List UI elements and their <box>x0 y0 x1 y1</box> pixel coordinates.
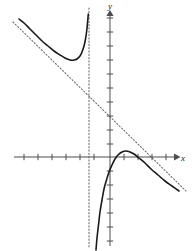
x-axis-arrowhead <box>174 153 181 160</box>
graph-canvas: x y <box>0 0 192 251</box>
curve-right-branch <box>96 151 179 250</box>
x-axis-label: x <box>180 153 185 163</box>
rational-function-graph: x y <box>0 0 192 251</box>
y-axis-label: y <box>107 1 112 11</box>
curve-left-branch <box>19 14 88 60</box>
slant-asymptote <box>13 22 186 191</box>
